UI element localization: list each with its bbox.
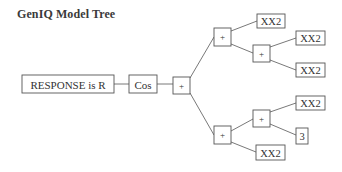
node-xx2-top: XX2 <box>257 14 285 28</box>
node-xx2-right-a: XX2 <box>296 31 325 45</box>
node-constant-3: 3 <box>296 128 308 144</box>
node-plus-upper: + <box>214 28 231 46</box>
svg-text:XX2: XX2 <box>260 148 280 159</box>
edge-low-xx2 <box>270 103 296 112</box>
svg-text:+: + <box>179 81 184 91</box>
node-xx2-bottom: XX2 <box>256 145 285 160</box>
edge-mid-xx2a <box>270 38 296 47</box>
edge-upper-xx2 <box>231 21 257 31</box>
svg-text:XX2: XX2 <box>261 16 281 27</box>
svg-text:XX2: XX2 <box>300 65 320 76</box>
svg-text:+: + <box>220 130 225 140</box>
edge-lower-xx2 <box>231 142 256 152</box>
svg-text:+: + <box>259 114 264 124</box>
edge-lower-plus <box>231 119 253 131</box>
svg-text:+: + <box>259 49 264 59</box>
svg-text:+: + <box>220 32 225 42</box>
svg-text:Cos: Cos <box>134 79 151 91</box>
node-plus-lower-mid: + <box>253 110 270 127</box>
node-plus-lower: + <box>214 126 231 144</box>
svg-text:RESPONSE is R: RESPONSE is R <box>30 79 106 91</box>
model-tree: RESPONSE is R Cos + + XX2 + XX2 XX2 + <box>0 0 342 172</box>
edge-low-3 <box>270 124 296 135</box>
svg-text:XX2: XX2 <box>300 33 320 44</box>
svg-text:XX2: XX2 <box>300 98 320 109</box>
node-cos: Cos <box>129 75 157 93</box>
node-plus-upper-mid: + <box>253 45 270 62</box>
edge-root-upper <box>190 37 214 78</box>
edge-root-lower <box>190 93 214 135</box>
edge-upper-plus <box>231 44 253 53</box>
edge-mid-xx2b <box>270 60 296 70</box>
svg-text:3: 3 <box>299 131 304 142</box>
node-xx2-right-b: XX2 <box>296 63 325 77</box>
node-plus-root: + <box>173 77 190 94</box>
node-xx2-right-c: XX2 <box>296 96 325 110</box>
node-response: RESPONSE is R <box>22 75 114 93</box>
